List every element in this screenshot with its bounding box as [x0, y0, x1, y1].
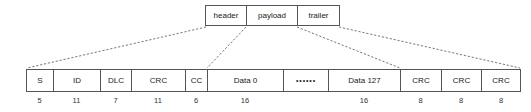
field-cell: CC	[185, 69, 207, 92]
field-label: CC	[191, 77, 203, 85]
field-cell: CRC	[400, 69, 441, 92]
field-cell: DLC	[100, 69, 131, 92]
frame-structure-diagram: headerpayloadtrailer SIDDLCCRCCCData 0••…	[0, 0, 531, 112]
field-cell: S	[26, 69, 53, 92]
field-label: S	[37, 77, 42, 85]
frame-group-label: header	[214, 12, 239, 20]
field-label: CRC	[453, 77, 470, 85]
bit-size-label: 8	[481, 95, 521, 107]
frame-group-payload: payload	[246, 5, 297, 26]
field-label: Data 0	[234, 77, 258, 85]
bit-size-label	[283, 95, 328, 107]
frame-group-header: header	[205, 5, 246, 26]
field-label: Data 127	[348, 77, 380, 85]
field-label: CRC	[150, 77, 167, 85]
bit-size-label: 16	[328, 95, 400, 107]
field-label: CRC	[492, 77, 509, 85]
bit-size-label: 8	[400, 95, 441, 107]
connector-header-right	[207, 27, 246, 68]
bit-size-label: 11	[53, 95, 100, 107]
bit-field-row: SIDDLCCRCCCData 0••••••Data 127CRCCRCCRC	[26, 69, 521, 92]
field-label: DLC	[108, 77, 124, 85]
frame-group-label: payload	[258, 12, 286, 20]
field-cell: CRC	[441, 69, 481, 92]
field-cell: CRC	[481, 69, 521, 92]
bit-size-label-row: 51171161616888	[26, 95, 521, 107]
ellipsis-icon: ••••••	[296, 77, 316, 84]
frame-group-label: trailer	[308, 12, 328, 20]
bit-size-label: 6	[185, 95, 207, 107]
frame-group-trailer: trailer	[297, 5, 340, 26]
bit-size-label: 5	[26, 95, 53, 107]
connector-trailer-left	[297, 27, 400, 68]
field-cell: Data 0	[207, 69, 283, 92]
bit-size-label: 7	[100, 95, 131, 107]
bit-size-label: 16	[207, 95, 283, 107]
field-cell: ID	[53, 69, 100, 92]
field-cell-ellipsis: ••••••	[283, 69, 328, 92]
connector-trailer-right	[339, 27, 520, 68]
frame-group-row: headerpayloadtrailer	[205, 5, 340, 26]
connector-header-left	[27, 27, 206, 68]
bit-size-label: 8	[441, 95, 481, 107]
field-label: CRC	[412, 77, 429, 85]
field-cell: Data 127	[328, 69, 400, 92]
bit-size-label: 11	[131, 95, 185, 107]
field-label: ID	[73, 77, 81, 85]
field-cell: CRC	[131, 69, 185, 92]
